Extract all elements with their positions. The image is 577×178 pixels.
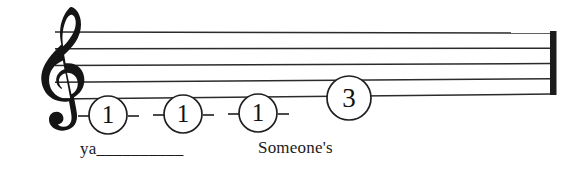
final-barline [550,31,557,95]
staff-line-3 [55,64,551,66]
fingering-label-4: 3 [342,83,356,113]
staff-line-1 [55,32,551,33]
fingering-circle-4: 3 [327,76,371,120]
fingering-circle-3: 1 [228,94,289,132]
fingering-label-1: 1 [102,101,115,128]
music-notation-figure: 1 1 1 3 ya__________ Someone's [0,0,577,178]
lyric-extension-ya: __________ [96,139,183,158]
lyric-word-someones: Someone's [258,138,333,158]
staff-line-2 [55,48,551,49]
lyric-text-someones: Someone's [258,138,333,157]
fingering-label-3: 1 [252,99,265,126]
staff-line-4 [55,79,551,83]
treble-clef-icon [41,7,84,131]
staff-line-5 [55,94,551,99]
fingering-circle-2: 1 [153,95,214,133]
staff-lines [55,32,551,99]
lyric-text-ya: ya [80,139,96,158]
fingering-circle-1: 1 [78,96,139,134]
lyric-syllable-ya: ya__________ [80,139,183,159]
fingering-label-2: 1 [177,100,190,127]
